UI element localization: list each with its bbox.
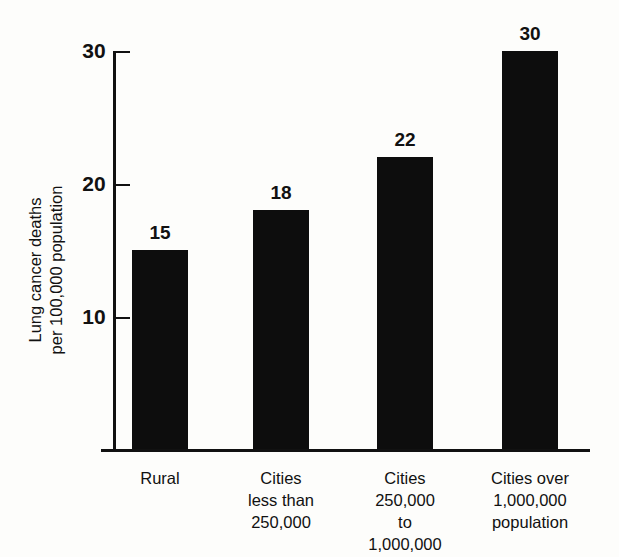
bar-cities-over-1000000 xyxy=(502,51,558,449)
y-axis-title-line-2: per 100,000 population xyxy=(46,186,67,355)
bar-value-label-cities-250000-to-1000000: 22 xyxy=(375,129,435,151)
y-axis-title-line-1: Lung cancer deaths xyxy=(25,186,46,355)
x-axis-label-cities-less-than-250000-line-2: less than xyxy=(211,490,351,512)
x-axis-label-cities-250000-to-1000000-line-4: 1,000,000 xyxy=(335,534,475,556)
y-axis-line xyxy=(113,51,116,451)
y-tick-label-30: 30 xyxy=(58,39,106,63)
x-axis-label-cities-over-1000000: Cities over 1,000,000 population xyxy=(460,468,600,534)
x-axis-label-cities-less-than-250000-line-1: Cities xyxy=(211,468,351,490)
bar-cities-less-than-250000 xyxy=(253,210,309,449)
x-axis-label-cities-over-1000000-line-1: Cities over xyxy=(460,468,600,490)
x-axis-label-cities-250000-to-1000000-line-2: 250,000 xyxy=(335,490,475,512)
x-axis-label-cities-250000-to-1000000: Cities 250,000 to 1,000,000 xyxy=(335,468,475,556)
bar-cities-250000-to-1000000 xyxy=(377,157,433,449)
y-tick-label-10: 10 xyxy=(58,305,106,329)
bar-rural xyxy=(132,250,188,449)
y-tick-30 xyxy=(115,51,130,53)
x-axis-label-rural: Rural xyxy=(90,468,230,490)
x-axis-label-cities-over-1000000-line-2: 1,000,000 xyxy=(460,490,600,512)
bar-value-label-rural: 15 xyxy=(130,222,190,244)
x-axis-label-rural-line-1: Rural xyxy=(90,468,230,490)
x-axis-label-cities-less-than-250000-line-3: 250,000 xyxy=(211,512,351,534)
x-axis-label-cities-over-1000000-line-3: population xyxy=(460,512,600,534)
x-axis-label-cities-250000-to-1000000-line-1: Cities xyxy=(335,468,475,490)
y-tick-20 xyxy=(115,184,130,186)
bar-value-label-cities-over-1000000: 30 xyxy=(500,23,560,45)
bar-value-label-cities-less-than-250000: 18 xyxy=(251,182,311,204)
x-axis-baseline xyxy=(101,449,590,452)
x-axis-label-cities-less-than-250000: Cities less than 250,000 xyxy=(211,468,351,534)
bar-chart: Lung cancer deaths per 100,000 populatio… xyxy=(0,0,619,557)
y-axis-title: Lung cancer deaths per 100,000 populatio… xyxy=(14,120,78,420)
y-tick-label-20: 20 xyxy=(58,172,106,196)
x-axis-label-cities-250000-to-1000000-line-3: to xyxy=(335,512,475,534)
y-tick-10 xyxy=(115,317,130,319)
